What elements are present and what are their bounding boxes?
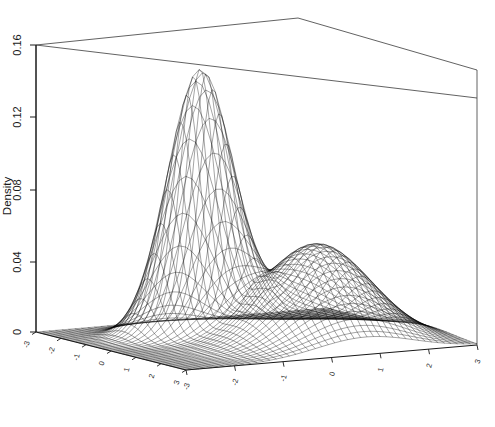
z-tick-label-0.16: 0.16 <box>11 34 23 55</box>
z-tick-label-0.04: 0.04 <box>11 251 23 272</box>
z-tick-label-0.12: 0.12 <box>11 106 23 127</box>
z-axis-title: Density <box>1 177 13 216</box>
plot-canvas: 0.16 0.12 0.08 0.04 0 Density -3-2-10123… <box>0 0 495 427</box>
perspective-density-plot: 0.16 0.12 0.08 0.04 0 Density -3-2-10123… <box>0 0 495 427</box>
z-tick-label-0: 0 <box>11 329 23 335</box>
